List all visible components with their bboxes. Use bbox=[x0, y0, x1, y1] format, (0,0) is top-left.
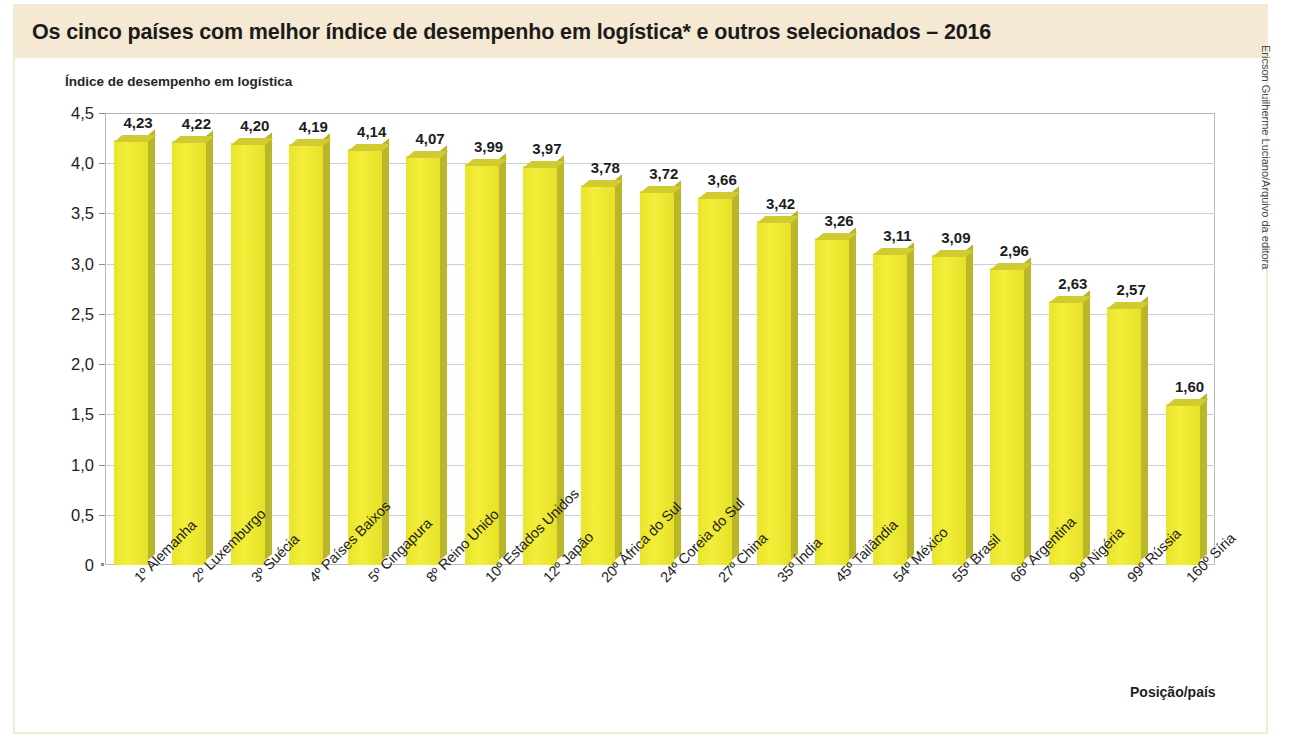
bar[interactable]: 4,23 bbox=[114, 140, 148, 565]
bar-face bbox=[581, 185, 615, 565]
bar-value-label: 1,60 bbox=[1166, 378, 1214, 395]
y-tick-label: 4,0 bbox=[15, 154, 94, 173]
bar-side-3d bbox=[966, 244, 973, 560]
bar-side-3d bbox=[440, 145, 447, 560]
bar-value-label: 3,26 bbox=[815, 212, 863, 229]
bar-side-3d bbox=[615, 174, 622, 560]
bar-value-label: 3,72 bbox=[640, 165, 688, 182]
bar-side-3d bbox=[1141, 296, 1148, 560]
y-tick-label: 3,5 bbox=[15, 204, 94, 223]
chart-title-band: Os cinco países com melhor índice de des… bbox=[15, 6, 1266, 58]
bar-value-label: 3,09 bbox=[932, 229, 980, 246]
y-tick-mark bbox=[99, 213, 105, 214]
bar-value-label: 3,78 bbox=[581, 159, 629, 176]
x-axis-caption: Posição/país bbox=[1130, 684, 1216, 700]
bar-value-label: 3,42 bbox=[757, 195, 805, 212]
bar-value-label: 3,11 bbox=[873, 227, 921, 244]
bar[interactable]: 3,78 bbox=[581, 185, 615, 565]
bar[interactable]: 4,20 bbox=[231, 143, 265, 565]
y-tick-mark bbox=[99, 414, 105, 415]
bar[interactable]: 2,96 bbox=[990, 268, 1024, 565]
bar-side-3d bbox=[1200, 393, 1207, 560]
y-tick-label: 0,5 bbox=[15, 505, 94, 524]
bar-side-3d bbox=[791, 211, 798, 560]
bar-face bbox=[815, 238, 849, 565]
bar-value-label: 3,97 bbox=[523, 140, 571, 157]
image-credit: Ericson Guilherme Luciano/Arquivo da edi… bbox=[1260, 45, 1272, 269]
bar-value-label: 3,66 bbox=[698, 171, 746, 188]
y-tick-mark bbox=[99, 163, 105, 164]
axis-origin-tick bbox=[101, 563, 104, 566]
y-axis-caption: Índice de desempenho em logística bbox=[65, 74, 292, 89]
bar-face bbox=[231, 143, 265, 565]
bar[interactable]: 4,07 bbox=[406, 156, 440, 565]
bar-side-3d bbox=[849, 227, 856, 560]
bar-face bbox=[406, 156, 440, 565]
bar-value-label: 2,57 bbox=[1107, 281, 1155, 298]
y-tick-mark bbox=[99, 264, 105, 265]
bar-side-3d bbox=[265, 132, 272, 560]
page-title: Os cinco países com melhor índice de des… bbox=[15, 20, 991, 45]
bar-value-label: 4,23 bbox=[114, 114, 162, 131]
bar-value-label: 4,14 bbox=[348, 123, 396, 140]
bar-side-3d bbox=[148, 129, 155, 560]
y-tick-mark bbox=[99, 515, 105, 516]
bar-face bbox=[757, 221, 791, 565]
y-tick-mark bbox=[99, 465, 105, 466]
bar-value-label: 3,99 bbox=[465, 138, 513, 155]
bar[interactable]: 4,19 bbox=[289, 144, 323, 565]
y-tick-label: 0 bbox=[15, 556, 94, 575]
bar-face bbox=[114, 140, 148, 565]
y-tick-mark bbox=[99, 364, 105, 365]
bar-value-label: 2,63 bbox=[1049, 275, 1097, 292]
bar-value-label: 4,20 bbox=[231, 117, 279, 134]
bar-side-3d bbox=[323, 133, 330, 560]
bar-face bbox=[172, 141, 206, 565]
y-tick-label: 1,5 bbox=[15, 405, 94, 424]
y-tick-label: 1,0 bbox=[15, 455, 94, 474]
bar[interactable]: 3,99 bbox=[465, 164, 499, 565]
figure-container: Os cinco países com melhor índice de des… bbox=[13, 4, 1268, 734]
y-tick-label: 2,0 bbox=[15, 355, 94, 374]
bar-side-3d bbox=[1024, 257, 1031, 560]
x-axis-labels: 1º Alemanha2º Luxemburgo3º Suécia4º País… bbox=[105, 570, 1215, 700]
bar-value-label: 4,07 bbox=[406, 130, 454, 147]
bar-face bbox=[289, 144, 323, 565]
bar[interactable]: 3,26 bbox=[815, 238, 849, 565]
bar-side-3d bbox=[499, 153, 506, 560]
bar-side-3d bbox=[382, 138, 389, 560]
plot-area: 4,234,224,204,194,144,073,993,973,783,72… bbox=[105, 113, 1215, 565]
bar-face bbox=[932, 255, 966, 565]
bar-side-3d bbox=[907, 242, 914, 560]
bar-face bbox=[465, 164, 499, 565]
y-tick-label: 4,5 bbox=[15, 104, 94, 123]
y-tick-label: 2,5 bbox=[15, 304, 94, 323]
bar-value-label: 4,19 bbox=[289, 118, 337, 135]
bar[interactable]: 4,22 bbox=[172, 141, 206, 565]
bar-side-3d bbox=[206, 130, 213, 560]
y-tick-mark bbox=[99, 113, 105, 114]
bar[interactable]: 3,09 bbox=[932, 255, 966, 565]
bar-series: 4,234,224,204,194,144,073,993,973,783,72… bbox=[105, 113, 1215, 565]
bar[interactable]: 3,42 bbox=[757, 221, 791, 565]
bar-value-label: 2,96 bbox=[990, 242, 1038, 259]
bar-side-3d bbox=[1083, 290, 1090, 560]
y-tick-mark bbox=[99, 314, 105, 315]
bar-face bbox=[990, 268, 1024, 565]
y-tick-label: 3,0 bbox=[15, 254, 94, 273]
bar-value-label: 4,22 bbox=[172, 115, 220, 132]
